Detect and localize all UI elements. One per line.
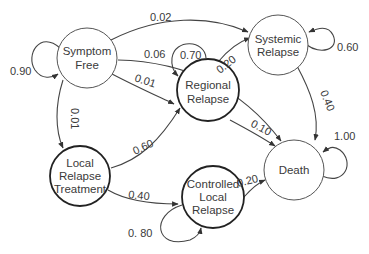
node-label: Treatment	[54, 183, 107, 195]
node-systemic-relapse: Systemic Relapse	[248, 15, 308, 75]
node-label: Symptom	[63, 45, 112, 57]
edge-label-controlled-to-death: 0.20	[236, 172, 260, 189]
edge-systemic-self	[307, 28, 334, 50]
node-symptom-free: Symptom Free	[57, 28, 117, 88]
node-label: Controlled	[187, 178, 239, 190]
edge-symptom-free-to-systemic	[111, 20, 248, 40]
edge-symptom-free-to-local	[57, 80, 63, 148]
node-label: Local	[199, 191, 227, 203]
node-label: Free	[75, 59, 99, 71]
edge-label-symptom-free-self: 0.90	[10, 65, 31, 77]
node-label: Relapse	[59, 170, 101, 182]
edge-death-self	[322, 147, 347, 178]
edge-label-death-self: 1.00	[334, 130, 355, 142]
edge-systemic-to-death	[297, 66, 316, 140]
node-label: Death	[279, 164, 310, 176]
edge-label-regional-self: 0.70	[180, 49, 201, 61]
edge-label-symptom-free-to-death: 0.06	[144, 48, 165, 60]
node-label: Relapse	[257, 46, 299, 58]
node-label: Local	[66, 157, 94, 169]
node-label: Systemic	[255, 33, 302, 45]
edge-label-symptom-free-to-local: 0.01	[69, 108, 81, 129]
edge-symptom-free-self	[32, 42, 60, 78]
node-label: Relapse	[192, 204, 234, 216]
node-death: Death	[264, 140, 324, 200]
edge-label-controlled-self: 0. 80	[128, 227, 152, 239]
edge-label-systemic-to-death: 0.40	[318, 88, 337, 112]
state-transition-diagram: Symptom Free Systemic Relapse Regional R…	[0, 0, 369, 254]
node-label: Regional	[185, 79, 230, 91]
edge-label-regional-to-death: 0.10	[249, 117, 274, 138]
edge-label-local-to-controlled: 0.40	[128, 188, 151, 202]
node-label: Relapse	[187, 93, 229, 105]
node-local-relapse-treatment: Local Relapse Treatment	[50, 146, 110, 206]
edge-label-local-to-regional: 0.60	[131, 137, 155, 157]
edge-label-systemic-self: 0.60	[337, 41, 358, 53]
node-controlled-local-relapse: Controlled Local Relapse	[182, 166, 244, 228]
edge-label-symptom-free-to-systemic: 0.02	[150, 11, 171, 23]
